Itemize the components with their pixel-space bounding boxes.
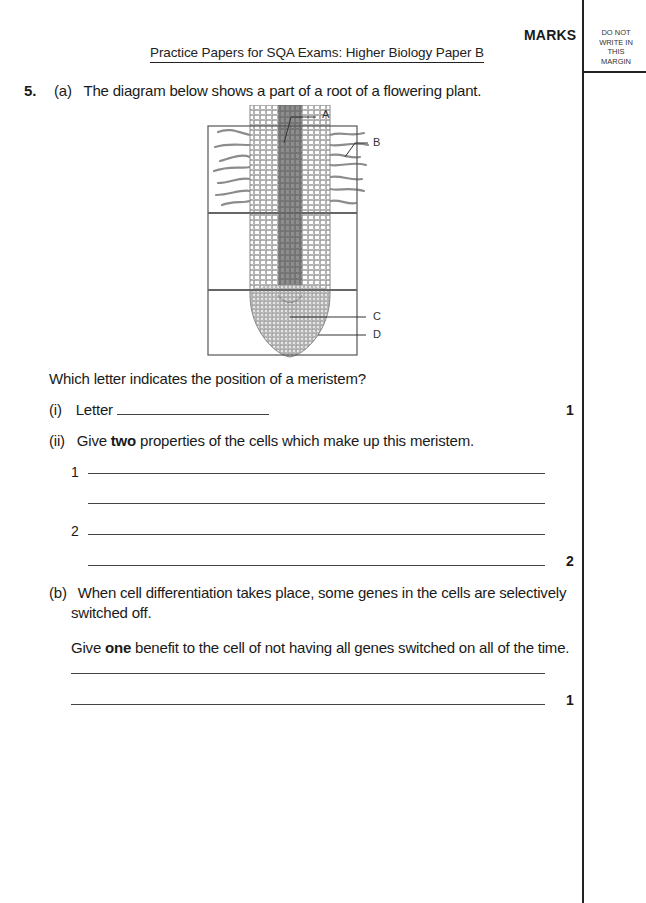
do-not-write-margin-note: DO NOT WRITE IN THIS MARGIN (592, 28, 640, 66)
benefit-answer-line-1[interactable] (71, 673, 545, 674)
meristem-question: Which letter indicates the position of a… (49, 370, 366, 387)
part-b-prompt: Give one benefit to the cell of not havi… (71, 639, 569, 656)
margin-divider-line (582, 0, 584, 903)
part-b-prompt-before: Give (71, 639, 105, 656)
property-1-answer-line-2[interactable] (88, 503, 545, 504)
marks-column-header: MARKS (524, 27, 576, 43)
part-a-text: The diagram below shows a part of a root… (83, 82, 481, 99)
margin-note-line: WRITE IN (592, 38, 640, 48)
question-5a-intro: 5. (a) The diagram below shows a part of… (24, 82, 481, 99)
part-a-label: (a) (54, 82, 72, 99)
margin-header-rule (582, 71, 646, 73)
margin-note-line: THIS (592, 47, 640, 57)
sub-i-text: Letter (76, 401, 113, 418)
answer-number-1: 1 (71, 464, 79, 480)
property-2-answer-line-2[interactable] (88, 565, 545, 566)
letter-answer-line[interactable] (117, 414, 269, 415)
root-hairs-left (214, 130, 250, 205)
root-hairs-right (330, 133, 368, 203)
diagram-label-c: C (373, 310, 381, 322)
diagram-label-d: D (373, 328, 381, 340)
part-b-label: (b) (49, 584, 67, 601)
sub-question-i: (i) Letter (49, 401, 113, 418)
diagram-label-a: A (322, 108, 329, 120)
mark-part-b: 1 (566, 692, 574, 708)
property-2-answer-line-1[interactable] (88, 534, 545, 535)
sub-i-label: (i) (49, 401, 62, 418)
part-b-prompt-after: benefit to the cell of not having all ge… (131, 639, 569, 656)
benefit-answer-line-2[interactable] (71, 704, 545, 705)
mark-sub-i: 1 (566, 402, 574, 418)
answer-number-2: 2 (71, 523, 79, 539)
part-b-text: When cell differentiation takes place, s… (78, 584, 567, 601)
margin-note-line: MARGIN (592, 57, 640, 67)
diagram-label-b: B (373, 136, 380, 148)
sub-question-ii: (ii) Give two properties of the cells wh… (49, 432, 474, 449)
part-b-prompt-bold: one (105, 639, 131, 656)
part-b-text-line-1: (b) When cell differentiation takes plac… (49, 584, 566, 601)
mark-sub-ii: 2 (566, 553, 574, 569)
property-1-answer-line-1[interactable] (88, 473, 545, 474)
sub-ii-text-bold: two (111, 432, 136, 449)
sub-ii-text-after: properties of the cells which make up th… (136, 432, 474, 449)
margin-note-line: DO NOT (592, 28, 640, 38)
root-tip-diagram: A B C D (200, 105, 400, 369)
question-number: 5. (24, 82, 36, 99)
sub-ii-text-before: Give (77, 432, 111, 449)
part-b-text-line-2: switched off. (71, 604, 152, 621)
sub-ii-label: (ii) (49, 432, 65, 449)
page-title: Practice Papers for SQA Exams: Higher Bi… (150, 45, 484, 63)
